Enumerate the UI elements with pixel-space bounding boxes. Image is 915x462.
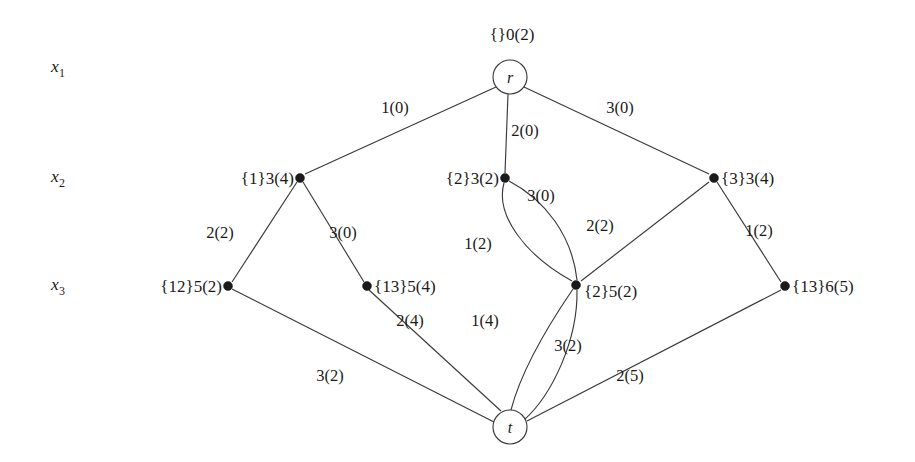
- row-label-subscript: 1: [59, 66, 65, 80]
- node-caption-n12: {12}5(2): [160, 277, 222, 296]
- edge-weight-label: 1(4): [471, 311, 499, 330]
- edges-layer: [232, 87, 781, 422]
- node-dot-n2b: [572, 281, 581, 290]
- edge-weight-label: 2(2): [206, 223, 234, 242]
- graph-edge: [505, 94, 508, 173]
- edge-weight-label: 3(0): [329, 223, 357, 242]
- node-name-t: t: [508, 419, 513, 436]
- edge-weight-label: 2(5): [616, 366, 644, 385]
- node-dot-n12: [224, 282, 233, 291]
- graph-canvas: 1(0)2(0)3(0)2(2)3(0)1(2)3(0)2(2)1(2)3(2)…: [0, 0, 915, 462]
- graph-diagram: 1(0)2(0)3(0)2(2)3(0)1(2)3(0)2(2)1(2)3(2)…: [0, 0, 915, 462]
- edge-weight-label: 2(0): [511, 121, 539, 140]
- node-name-r: r: [507, 69, 514, 86]
- row-label-x3: x3: [50, 274, 65, 298]
- graph-edge: [524, 290, 577, 420]
- graph-edge: [232, 182, 297, 282]
- node-caption-r: {}0(2): [490, 25, 535, 44]
- nodes-layer: rt: [224, 60, 790, 444]
- graph-edge: [369, 290, 501, 411]
- graph-edge: [232, 289, 494, 422]
- node-dot-n1: [296, 174, 305, 183]
- node-caption-n1: {1}3(4): [241, 169, 294, 188]
- row-labels-layer: x1x2x3: [50, 56, 65, 298]
- edge-weight-label: 3(0): [606, 98, 634, 117]
- edge-weight-label: 2(2): [586, 216, 614, 235]
- node-caption-n2: {2}3(2): [446, 169, 499, 188]
- row-label-base: x: [50, 166, 59, 186]
- edge-weight-label: 1(0): [381, 98, 409, 117]
- edge-labels-layer: 1(0)2(0)3(0)2(2)3(0)1(2)3(0)2(2)1(2)3(2)…: [206, 98, 773, 385]
- edge-weight-label: 2(4): [396, 311, 424, 330]
- row-label-subscript: 3: [59, 284, 65, 298]
- edge-weight-label: 1(2): [745, 221, 773, 240]
- node-dot-n3: [710, 174, 719, 183]
- row-label-subscript: 2: [59, 176, 65, 190]
- edge-weight-label: 3(2): [316, 366, 344, 385]
- node-dot-n2: [501, 174, 510, 183]
- edge-weight-label: 3(2): [554, 336, 582, 355]
- edge-weight-label: 1(2): [464, 234, 492, 253]
- row-label-x2: x2: [50, 166, 65, 190]
- edge-weight-label: 3(0): [527, 186, 555, 205]
- node-caption-n2b: {2}5(2): [584, 282, 637, 301]
- row-label-base: x: [50, 274, 59, 294]
- node-dot-n13a: [363, 282, 372, 291]
- node-dot-n13b: [781, 282, 790, 291]
- row-label-x1: x1: [50, 56, 65, 80]
- node-caption-n3: {3}3(4): [721, 169, 774, 188]
- node-caption-n13a: {13}5(4): [374, 277, 436, 296]
- node-caption-n13b: {13}6(5): [792, 277, 854, 296]
- row-label-base: x: [50, 56, 59, 76]
